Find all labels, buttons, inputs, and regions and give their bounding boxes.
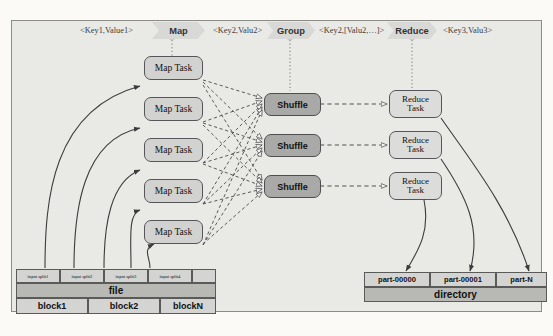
map-task-5[interactable]: Map Task bbox=[144, 220, 203, 244]
part-00001[interactable]: part-00001 bbox=[430, 272, 496, 287]
map-task-1[interactable]: Map Task bbox=[144, 56, 203, 80]
shuffle-3[interactable]: Shuffle bbox=[264, 175, 321, 198]
input-split-4[interactable]: input split4 bbox=[148, 269, 192, 283]
shuffle-2[interactable]: Shuffle bbox=[264, 134, 321, 157]
reduce-task-2-line2: Task bbox=[407, 145, 424, 154]
stage-guide-lines bbox=[172, 40, 412, 91]
block-n[interactable]: blockN bbox=[160, 298, 216, 314]
reduce-task-2[interactable]: Reduce Task bbox=[389, 131, 442, 159]
shuffle-to-reducetask-arrows bbox=[320, 104, 387, 186]
group-stage-chevron[interactable]: Group bbox=[267, 22, 315, 39]
reduce-task-3-line2: Task bbox=[407, 186, 424, 195]
input-split-2[interactable]: input split2 bbox=[60, 269, 104, 283]
key1-value1-label: <Key1,Value1> bbox=[80, 26, 133, 35]
map-stage-chevron[interactable]: Map bbox=[152, 22, 205, 39]
diagram-canvas: <Key1,Value1> Map <Key2,Valu2> Group <Ke… bbox=[0, 0, 553, 336]
reduce-task-1[interactable]: Reduce Task bbox=[389, 90, 442, 118]
reduce-task-1-line2: Task bbox=[407, 104, 424, 113]
block-2[interactable]: block2 bbox=[88, 298, 160, 314]
maptask-to-shuffle-arrows bbox=[203, 80, 262, 245]
reduce-task-3[interactable]: Reduce Task bbox=[389, 172, 442, 200]
block-1[interactable]: block1 bbox=[16, 298, 88, 314]
shuffle-1[interactable]: Shuffle bbox=[264, 93, 321, 116]
input-split-3[interactable]: input split3 bbox=[104, 269, 148, 283]
part-n[interactable]: part-N bbox=[496, 272, 547, 287]
directory-label: directory bbox=[364, 287, 547, 302]
map-task-2[interactable]: Map Task bbox=[144, 97, 203, 121]
key2-value-list-label: <Key2,[Valu2,…]> bbox=[319, 26, 384, 35]
key2-value2-label: <Key2,Valu2> bbox=[213, 26, 262, 35]
map-task-4[interactable]: Map Task bbox=[144, 179, 203, 203]
input-split-empty bbox=[192, 269, 216, 283]
input-split-1[interactable]: input split1 bbox=[16, 269, 60, 283]
part-00000[interactable]: part-00000 bbox=[364, 272, 430, 287]
split-to-maptask-arrows bbox=[45, 86, 154, 268]
map-task-3[interactable]: Map Task bbox=[144, 138, 203, 162]
key3-value3-label: <Key3,Valu3> bbox=[443, 26, 492, 35]
reduce-stage-chevron[interactable]: Reduce bbox=[387, 22, 437, 39]
file-label: file bbox=[16, 283, 216, 298]
